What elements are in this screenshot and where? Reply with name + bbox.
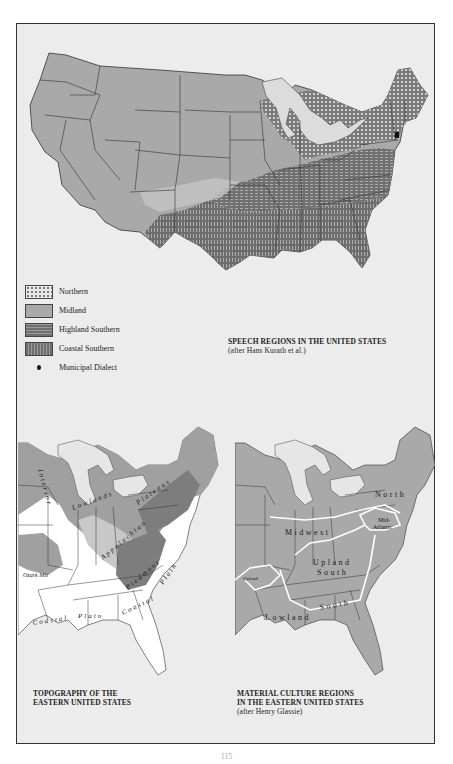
caption-title-line2: IN THE EASTERN UNITED STATES <box>237 698 364 707</box>
label-upland-south-1: Upland <box>313 558 352 567</box>
caption-title-line1: MATERIAL CULTURE REGIONS <box>237 689 364 698</box>
topography-map: Interior Lowlands Plateaus Appalachian O… <box>18 425 223 680</box>
speech-regions-map <box>20 28 435 278</box>
caption-title-line1: TOPOGRAPHY OF THE <box>33 689 131 698</box>
label-upland-small: Upland <box>243 576 258 581</box>
municipal-dialect-icon <box>25 365 53 370</box>
material-culture-map: North Mid- Atlantic Midwest Upland South… <box>235 425 435 680</box>
municipal-dialect-marker <box>395 132 399 138</box>
speech-regions-caption: SPEECH REGIONS IN THE UNITED STATES (aft… <box>228 337 386 355</box>
topography-caption: TOPOGRAPHY OF THE EASTERN UNITED STATES <box>33 689 131 707</box>
material-culture-caption: MATERIAL CULTURE REGIONS IN THE EASTERN … <box>237 689 364 716</box>
legend-item-coastal-southern: Coastal Southern <box>25 339 120 358</box>
speech-regions-legend: Northern Midland Highland Southern Coast… <box>25 282 120 377</box>
label-midwest: Midwest <box>285 528 331 537</box>
legend-label: Highland Southern <box>59 325 120 334</box>
caption-source: (after Henry Glassie) <box>237 707 364 716</box>
caption-source: (after Hans Kurath et al.) <box>228 346 386 355</box>
legend-label: Coastal Southern <box>59 344 114 353</box>
page-number: 115 <box>0 752 453 761</box>
caption-title-line2: EASTERN UNITED STATES <box>33 698 131 707</box>
northern-swatch <box>25 285 53 299</box>
midland-swatch <box>25 304 53 318</box>
label-plain-mid: Plain <box>77 612 103 620</box>
coastal-southern-swatch <box>25 342 53 356</box>
legend-label: Northern <box>59 287 88 296</box>
legend-item-municipal-dialect: Municipal Dialect <box>25 358 120 377</box>
label-mid-atlantic-2: Atlantic <box>373 524 393 530</box>
label-north: North <box>375 490 406 499</box>
label-upland-south-2: South <box>317 568 348 577</box>
legend-label: Midland <box>59 306 86 315</box>
label-ozark: Ozark Mts <box>23 572 49 578</box>
legend-item-highland-southern: Highland Southern <box>25 320 120 339</box>
label-mid-atlantic-1: Mid- <box>378 517 390 523</box>
caption-title: SPEECH REGIONS IN THE UNITED STATES <box>228 337 386 346</box>
legend-label: Municipal Dialect <box>59 363 117 372</box>
legend-item-midland: Midland <box>25 301 120 320</box>
highland-southern-swatch <box>25 323 53 337</box>
label-lowland-south-1: Lowland <box>265 613 311 622</box>
legend-item-northern: Northern <box>25 282 120 301</box>
